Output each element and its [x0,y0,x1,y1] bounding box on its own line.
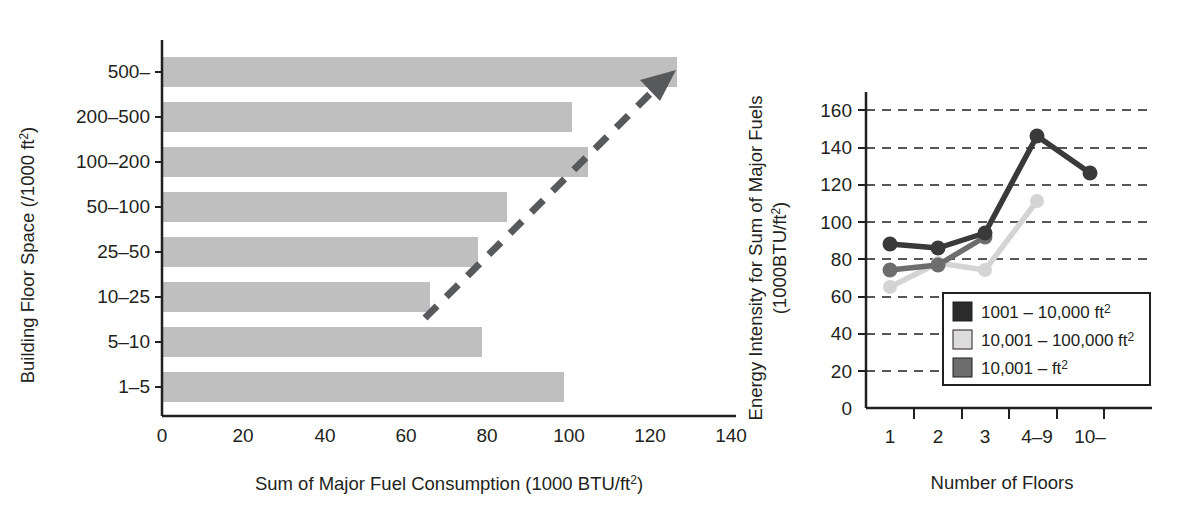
legend-swatch-1001-10000 [953,302,972,321]
bar-x-tick: 40 [314,425,335,446]
line-x-tick: 4–9 [1021,426,1053,447]
line-y-tick-labels: 0 20 40 60 80 100 120 140 160 [820,100,852,419]
line-chart-panel: Energy Intensity for Sum of Major Fuels … [740,0,1194,519]
bar-cat-label: 100–200 [76,151,150,172]
data-point [883,263,898,278]
line-y-axis-title: Energy Intensity for Sum of Major Fuels … [745,96,790,421]
bar-x-tick: 80 [476,425,497,446]
line-y-tick: 60 [831,286,852,307]
bar-x-tick: 60 [395,425,416,446]
bar-item [162,57,677,87]
line-chart-svg: Energy Intensity for Sum of Major Fuels … [740,0,1194,519]
bar-item [162,282,430,312]
bar-cat-label: 1–5 [118,376,150,397]
bar-item [162,102,572,132]
legend: 1001 – 10,000 ft2 10,001 – 100,000 ft2 1… [943,293,1150,385]
data-point [931,241,946,256]
bar-x-tick: 100 [553,425,585,446]
line-y-tick: 100 [820,212,852,233]
line-x-tick-labels: 1 2 3 4–9 10– [885,426,1107,447]
line-x-tick: 3 [980,426,991,447]
legend-swatch-10001-100000 [953,330,972,349]
bar-item [162,327,482,357]
data-point [1030,129,1045,144]
line-x-ticks [914,408,1104,419]
line-y-axis-title-row1: Energy Intensity for Sum of Major Fuels [745,96,766,421]
data-point [1083,166,1098,181]
line-x-tick: 1 [885,426,896,447]
data-point [883,237,898,252]
bar-item [162,192,507,222]
bar-chart-panel: Building Floor Space (/1000 ft2) 500– 20… [0,0,760,519]
bar-item [162,372,564,402]
legend-label-1001-10000: 1001 – 10,000 ft2 [981,302,1111,322]
legend-swatch-10001-plus [953,358,972,377]
line-y-tick: 20 [831,361,852,382]
data-point [931,258,946,273]
bar-x-tick: 20 [232,425,253,446]
bar-item [162,147,588,177]
bar-cat-label: 200–500 [76,106,150,127]
line-y-tick: 160 [820,100,852,121]
legend-label-10001-plus: 10,001 – ft2 [981,358,1068,378]
data-point [883,280,897,294]
line-y-tick: 140 [820,137,852,158]
line-y-tick: 120 [820,174,852,195]
data-point [978,226,993,241]
bar-item [162,237,478,267]
line-x-tick: 2 [933,426,944,447]
line-y-tick: 0 [841,398,852,419]
line-x-axis-title: Number of Floors [931,472,1074,493]
bar-series [162,57,677,402]
bar-y-axis-title: Building Floor Space (/1000 ft2) [17,127,38,384]
bar-cat-label: 25–50 [97,241,150,262]
data-point [1030,194,1044,208]
bar-x-tick: 120 [634,425,666,446]
figure-root: Building Floor Space (/1000 ft2) 500– 20… [0,0,1194,519]
bar-cat-label: 50–100 [87,196,150,217]
bar-chart-svg: Building Floor Space (/1000 ft2) 500– 20… [0,0,760,519]
bar-x-tick: 0 [157,425,168,446]
line-y-tick: 40 [831,323,852,344]
bar-x-tick-labels: 0 20 40 60 80 100 120 140 [157,425,747,446]
svg-text:Building Floor Space (/1000 ft: Building Floor Space (/1000 ft2) [17,127,38,384]
bar-x-axis-title: Sum of Major Fuel Consumption (1000 BTU/… [255,473,643,494]
line-x-tick: 10– [1074,426,1106,447]
bar-cat-label: 10–25 [97,286,150,307]
bar-cat-label: 5–10 [108,331,150,352]
bar-cat-label: 500– [108,61,151,82]
line-y-axis-title-row2: (1000BTU/ft2) [769,202,790,315]
bar-category-labels: 500– 200–500 100–200 50–100 25–50 10–25 … [76,61,150,397]
data-point [978,263,992,277]
legend-label-10001-100000: 10,001 – 100,000 ft2 [981,330,1135,350]
line-y-tick: 80 [831,249,852,270]
